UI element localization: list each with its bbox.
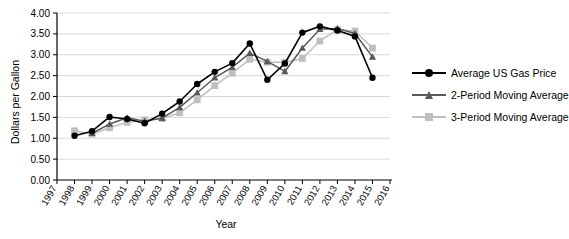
legend-label-series-1: 2-Period Moving Average xyxy=(451,89,569,101)
svg-text:2002: 2002 xyxy=(126,184,146,208)
legend-item-3-period-moving-average: 3-Period Moving Average xyxy=(412,106,568,128)
svg-text:4.00: 4.00 xyxy=(31,8,51,19)
svg-text:3.00: 3.00 xyxy=(31,49,51,60)
legend-label-series-2: 3-Period Moving Average xyxy=(451,111,569,123)
chart-legend: Average US Gas Price 2-Period Moving Ave… xyxy=(412,62,568,128)
y-axis-title: Dollars per Gallon xyxy=(9,42,21,162)
svg-text:2011: 2011 xyxy=(284,184,304,207)
svg-text:1999: 1999 xyxy=(74,184,94,208)
svg-text:2013: 2013 xyxy=(319,184,339,208)
legend-label-series-0: Average US Gas Price xyxy=(451,67,556,79)
svg-text:2007: 2007 xyxy=(214,184,234,208)
svg-text:2016: 2016 xyxy=(372,184,392,208)
svg-text:2005: 2005 xyxy=(179,184,199,208)
x-axis-title: Year xyxy=(196,218,256,230)
svg-text:2012: 2012 xyxy=(302,184,322,208)
svg-text:2004: 2004 xyxy=(161,184,181,208)
gridlines xyxy=(57,13,390,159)
gas-price-line-chart: 0.000.501.001.502.002.503.003.504.001997… xyxy=(0,0,569,239)
legend-swatch-series-2 xyxy=(412,110,446,124)
x-axis-ticks: 1997199819992000200120022003200420052006… xyxy=(39,180,392,207)
svg-text:2015: 2015 xyxy=(354,184,374,208)
svg-text:2009: 2009 xyxy=(249,184,269,208)
svg-text:0.50: 0.50 xyxy=(31,154,51,165)
legend-item-average-us-gas-price: Average US Gas Price xyxy=(412,62,568,84)
svg-text:2000: 2000 xyxy=(91,184,111,208)
svg-text:1997: 1997 xyxy=(39,184,59,208)
svg-text:1998: 1998 xyxy=(56,184,76,208)
legend-swatch-series-0 xyxy=(412,66,446,80)
svg-text:1.00: 1.00 xyxy=(31,133,51,144)
svg-text:2.00: 2.00 xyxy=(31,91,51,102)
legend-item-2-period-moving-average: 2-Period Moving Average xyxy=(412,84,568,106)
svg-text:2006: 2006 xyxy=(196,184,216,208)
svg-text:0.00: 0.00 xyxy=(31,175,51,186)
svg-text:2.50: 2.50 xyxy=(31,70,51,81)
svg-text:2008: 2008 xyxy=(231,184,251,208)
svg-text:2010: 2010 xyxy=(266,184,286,208)
legend-swatch-series-1 xyxy=(412,88,446,102)
svg-text:2001: 2001 xyxy=(109,184,129,208)
svg-text:1.50: 1.50 xyxy=(31,112,51,123)
y-axis-ticks: 0.000.501.001.502.002.503.003.504.00 xyxy=(31,8,57,186)
svg-text:3.50: 3.50 xyxy=(31,28,51,39)
svg-text:2014: 2014 xyxy=(337,184,357,208)
svg-text:2003: 2003 xyxy=(144,184,164,208)
